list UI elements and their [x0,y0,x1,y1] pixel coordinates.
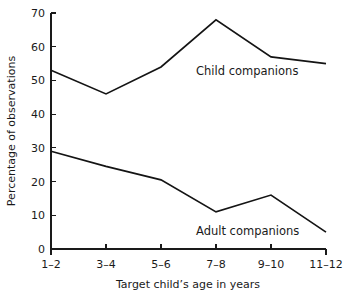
y-tick-marks [51,13,56,249]
x-axis-group: 1–23–45–67–89–1011–12 Target child’s age… [41,244,343,291]
series-annotation-adult-companions: Adult companions [196,224,299,238]
y-tick-label: 70 [31,7,45,20]
x-tick-label: 1–2 [41,258,61,271]
x-tick-labels: 1–23–45–67–89–1011–12 [41,258,343,271]
y-axis-group: 010203040506070 Percentage of observatio… [5,7,56,256]
y-tick-label: 0 [38,243,45,256]
line-chart: 010203040506070 Percentage of observatio… [0,0,346,298]
x-axis-title: Target child’s age in years [115,278,260,291]
y-tick-label: 10 [31,209,45,222]
chart-canvas: 010203040506070 Percentage of observatio… [0,0,346,298]
series-annotation-child-companions: Child companions [196,64,298,78]
x-tick-label: 7–8 [206,258,226,271]
series-annotations: Child companionsAdult companions [196,64,299,238]
series-line-child-companions [51,20,326,94]
series-line-adult-companions [51,151,326,232]
y-tick-label: 60 [31,41,45,54]
x-tick-label: 5–6 [151,258,171,271]
x-tick-label: 3–4 [96,258,116,271]
x-tick-label: 9–10 [258,258,285,271]
y-axis-title: Percentage of observations [5,56,18,207]
y-tick-label: 20 [31,176,45,189]
series-lines [51,20,326,232]
y-tick-label: 30 [31,142,45,155]
y-tick-label: 50 [31,74,45,87]
y-tick-labels: 010203040506070 [31,7,45,256]
x-tick-label: 11–12 [309,258,343,271]
y-tick-label: 40 [31,108,45,121]
